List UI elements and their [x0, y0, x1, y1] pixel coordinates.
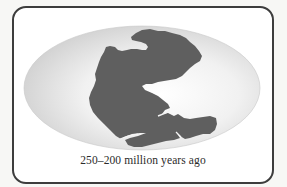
figure-caption: 250–200 million years ago — [12, 154, 274, 166]
